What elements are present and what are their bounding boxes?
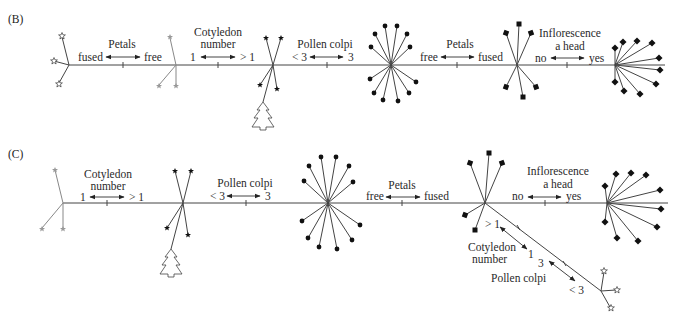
diamond-head-icon	[601, 169, 664, 244]
svg-text:fused: fused	[478, 51, 503, 63]
svg-text:< 3: < 3	[292, 51, 307, 63]
svg-text:1: 1	[528, 248, 534, 260]
svg-text:Pollen colpi: Pollen colpi	[217, 177, 272, 190]
svg-text:< 3: < 3	[210, 190, 225, 202]
character-petals-b2: Petals free fused	[420, 38, 503, 68]
svg-text:free: free	[144, 51, 162, 63]
round-dot-burst-icon	[368, 24, 419, 104]
character-cotyledon-b: Cotyledon number 1 > 1	[190, 26, 255, 68]
svg-text:a head: a head	[543, 178, 573, 190]
svg-text:3: 3	[265, 190, 271, 202]
svg-text:Inflorescence: Inflorescence	[539, 27, 601, 39]
svg-text:no: no	[512, 190, 524, 202]
character-inflorescence-b: Inflorescence a head no yes	[535, 27, 605, 68]
svg-text:number: number	[200, 38, 235, 50]
svg-text:fused: fused	[424, 190, 449, 202]
panel-label-c: (C)	[8, 148, 24, 161]
svg-text:Petals: Petals	[446, 38, 474, 50]
character-inflorescence-c: Inflorescence a head no yes	[512, 165, 589, 206]
svg-text:free: free	[420, 51, 438, 63]
open-star-flower-icon	[601, 268, 621, 312]
svg-text:Petals: Petals	[388, 179, 416, 191]
svg-text:fused: fused	[78, 51, 103, 63]
svg-text:no: no	[535, 52, 547, 64]
svg-text:1: 1	[190, 51, 196, 63]
svg-text:Pollen colpi: Pollen colpi	[491, 272, 546, 285]
character-cotyledon-branch: > 1 Cotyledon number 1	[468, 218, 534, 265]
svg-text:number: number	[472, 253, 507, 265]
svg-text:< 3: < 3	[569, 284, 584, 296]
black-star-tree-icon	[160, 168, 194, 277]
panel-b: (B) Petals fused free	[8, 13, 665, 130]
svg-text:yes: yes	[589, 52, 605, 65]
svg-text:1: 1	[80, 191, 86, 203]
svg-text:Petals: Petals	[108, 38, 136, 50]
svg-text:yes: yes	[566, 190, 582, 203]
gray-branch-icon	[39, 167, 66, 232]
svg-text:Pollen colpi: Pollen colpi	[297, 38, 352, 51]
panel-label-b: (B)	[8, 13, 24, 26]
svg-text:number: number	[90, 180, 125, 192]
black-star-tree-icon	[252, 35, 284, 130]
character-petals-c: Petals free fused	[366, 179, 449, 206]
character-cotyledon-c: Cotyledon number 1 > 1	[80, 168, 144, 206]
panel-c: (C) Cotyledon number 1 > 1	[8, 148, 668, 311]
svg-text:> 1: > 1	[129, 191, 144, 203]
square-dot-spray-icon	[503, 22, 539, 100]
svg-text:free: free	[366, 190, 384, 202]
svg-text:> 1: > 1	[485, 218, 500, 230]
phylogeny-diagram: (B) Petals fused free	[0, 0, 680, 317]
svg-text:3: 3	[348, 51, 354, 63]
svg-text:> 1: > 1	[240, 51, 255, 63]
character-pollen-colpi-b: Pollen colpi < 3 3	[292, 38, 354, 68]
open-star-flower-icon	[51, 33, 69, 88]
svg-text:Inflorescence: Inflorescence	[527, 165, 589, 177]
diamond-head-icon	[611, 37, 663, 97]
character-pollen-colpi-c: Pollen colpi < 3 3	[210, 177, 273, 206]
svg-text:a head: a head	[555, 40, 585, 52]
svg-text:3: 3	[538, 257, 544, 269]
character-petals-b1: Petals fused free	[78, 38, 162, 68]
